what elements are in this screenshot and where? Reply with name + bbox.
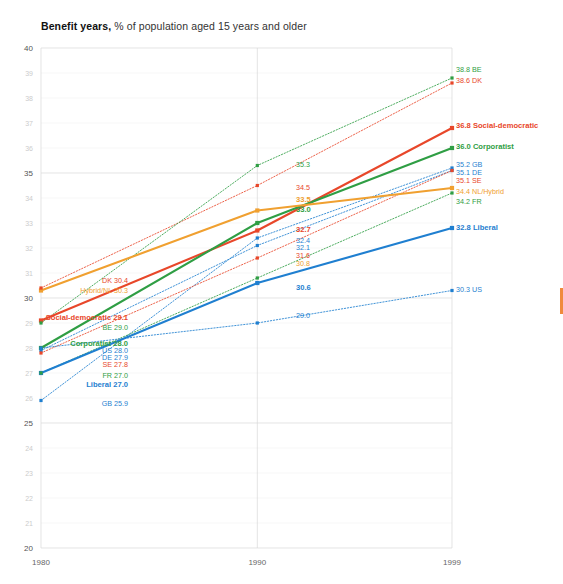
labels-1999: 38.8 BE38.6 DK36.8 Social-democratic36.0… (456, 65, 538, 294)
point-value-label: 29.0 (296, 311, 310, 320)
data-point-marker (256, 184, 259, 187)
point-value-label: BE 29.0 (102, 323, 128, 332)
point-value-label: Hybrid/NL 30.3 (80, 286, 128, 295)
data-point-marker (256, 244, 259, 247)
labels-1990: 35.334.533.533.032.732.432.131.630.830.6… (296, 160, 312, 320)
data-point-marker (39, 351, 42, 354)
data-point-marker (39, 286, 42, 289)
point-value-label: 30.3 US (456, 285, 482, 294)
data-point-marker (255, 221, 259, 225)
data-point-marker (255, 281, 259, 285)
data-point-marker (255, 208, 259, 212)
data-point-marker (256, 236, 259, 239)
data-point-marker (256, 256, 259, 259)
y-axis-minor-label: 37 (25, 120, 33, 127)
y-axis-minor-label: 28 (25, 345, 33, 352)
data-point-marker (450, 289, 453, 292)
point-value-label: Liberal 27.0 (86, 380, 128, 389)
point-value-label: 30.8 (296, 259, 310, 268)
data-point-marker (256, 321, 259, 324)
point-value-label: 36.0 Corporatist (456, 142, 514, 151)
point-value-label: 32.7 (296, 225, 311, 234)
point-value-label: 34.5 (296, 183, 310, 192)
y-axis-minor-label: 21 (25, 520, 33, 527)
data-point-marker (450, 76, 453, 79)
point-value-label: GB 25.9 (102, 399, 128, 408)
x-axis-ticks: 198019901999 (32, 558, 461, 567)
point-value-label: Social-democratic 29.1 (46, 313, 129, 322)
y-axis-minor-label: 27 (25, 370, 33, 377)
benefit-years-chart: Benefit years, % of population aged 15 y… (0, 0, 563, 584)
data-point-marker (256, 164, 259, 167)
data-point-marker (450, 81, 453, 84)
y-axis-minor-label: 22 (25, 495, 33, 502)
point-value-label: 30.6 (296, 283, 311, 292)
point-value-label: 35.3 (296, 160, 310, 169)
point-value-label: 32.8 Liberal (456, 223, 498, 232)
series-line-dk (41, 83, 452, 288)
y-axis-minor-label: 24 (25, 445, 33, 452)
y-axis-minor-label: 39 (25, 70, 33, 77)
point-value-label: 34.2 FR (456, 197, 482, 206)
data-point-marker (450, 191, 453, 194)
y-axis-label: 20 (24, 544, 33, 553)
data-point-marker (39, 321, 42, 324)
y-axis-label: 30 (24, 294, 33, 303)
data-point-marker (450, 146, 454, 150)
y-axis-label: 25 (24, 419, 33, 428)
chart-plot-area: 21222324262728293132333436373839 2025303… (0, 0, 563, 584)
data-point-marker (39, 399, 42, 402)
point-value-label: 36.8 Social-democratic (456, 121, 538, 130)
data-point-marker (256, 276, 259, 279)
x-axis-label: 1990 (248, 558, 266, 567)
y-axis-minor-label: 36 (25, 145, 33, 152)
y-axis-minor-label: 32 (25, 245, 33, 252)
data-point-marker (450, 126, 454, 130)
y-axis-label: 40 (24, 44, 33, 53)
y-axis-minor-label: 33 (25, 220, 33, 227)
data-point-marker (255, 228, 259, 232)
data-point-marker (450, 169, 453, 172)
data-point-marker (39, 346, 42, 349)
y-axis-label: 35 (24, 169, 33, 178)
y-axis-minor-label: 29 (25, 320, 33, 327)
point-value-label: 38.8 BE (456, 65, 482, 74)
x-axis-label: 1980 (32, 558, 50, 567)
y-axis-minor-label: 23 (25, 470, 33, 477)
point-value-label: 38.6 DK (456, 76, 482, 85)
point-value-label: 33.0 (296, 205, 311, 214)
data-point-marker (450, 186, 454, 190)
point-value-label: 35.1 SE (456, 176, 482, 185)
data-point-marker (39, 371, 42, 374)
y-axis-minor-label: 26 (25, 395, 33, 402)
point-value-label: DK 30.4 (102, 276, 128, 285)
y-axis-minor-label: 34 (25, 195, 33, 202)
point-value-label: SE 27.8 (102, 360, 128, 369)
point-value-label: FR 27.0 (102, 371, 128, 380)
x-axis-label: 1999 (443, 558, 461, 567)
point-value-label: 34.4 NL/Hybrid (456, 187, 504, 196)
data-point-marker (450, 226, 454, 230)
y-axis-minor-label: 38 (25, 95, 33, 102)
y-axis-minor-label: 31 (25, 270, 33, 277)
point-value-label: 33.5 (296, 195, 312, 204)
